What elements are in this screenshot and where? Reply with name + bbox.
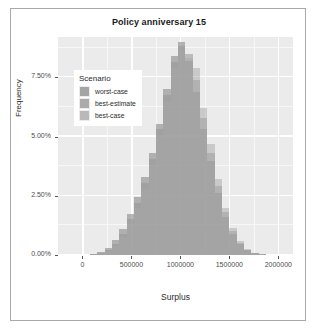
histogram-bar bbox=[134, 208, 141, 255]
y-axis-title: Frequency bbox=[14, 79, 23, 117]
histogram-bar bbox=[193, 68, 200, 255]
y-tick-label: 5.00% bbox=[15, 132, 51, 139]
histogram-bar bbox=[185, 58, 192, 255]
histogram-bar bbox=[244, 249, 251, 255]
histogram-bar bbox=[127, 224, 134, 255]
legend-swatch-icon bbox=[79, 110, 90, 121]
x-tick-mark bbox=[278, 256, 279, 259]
legend-item: worst-case bbox=[79, 86, 136, 97]
y-tick-label: 7.50% bbox=[15, 72, 51, 79]
legend-label: best-estimate bbox=[95, 100, 136, 107]
legend-item: best-estimate bbox=[79, 98, 136, 109]
grid-line-vertical bbox=[278, 37, 279, 255]
x-tick-mark bbox=[82, 256, 83, 259]
histogram-bar bbox=[149, 165, 156, 255]
legend-item: best-case bbox=[79, 110, 136, 121]
chart-title: Policy anniversary 15 bbox=[11, 17, 307, 27]
grid-line-vertical bbox=[229, 37, 230, 255]
histogram-bar bbox=[119, 237, 126, 255]
legend: Scenario worst-casebest-estimatebest-cas… bbox=[74, 70, 142, 126]
histogram-bar bbox=[237, 241, 244, 255]
histogram-bar bbox=[171, 68, 178, 255]
histogram-bar bbox=[141, 189, 148, 255]
x-tick-mark bbox=[131, 256, 132, 259]
x-tick-mark bbox=[229, 256, 230, 259]
legend-swatch-icon bbox=[79, 86, 90, 97]
legend-title: Scenario bbox=[79, 74, 136, 83]
histogram-bar bbox=[163, 102, 170, 255]
legend-swatch-icon bbox=[79, 98, 90, 109]
x-tick-label: 0 bbox=[81, 261, 85, 268]
x-tick-label: 1000000 bbox=[167, 261, 194, 268]
legend-label: best-case bbox=[95, 112, 124, 119]
y-tick-mark bbox=[55, 255, 58, 256]
histogram-bar bbox=[229, 228, 236, 255]
histogram-bar bbox=[105, 251, 112, 255]
y-tick-label: 0.00% bbox=[15, 250, 51, 257]
grid-line-vertical-minor bbox=[254, 37, 255, 255]
chart-frame: Policy anniversary 15 Frequency Surplus … bbox=[10, 8, 306, 321]
legend-label: worst-case bbox=[95, 88, 128, 95]
histogram-bar bbox=[178, 50, 185, 255]
histogram-bar bbox=[97, 254, 104, 255]
y-tick-label: 2.50% bbox=[15, 191, 51, 198]
histogram-bar bbox=[251, 253, 258, 255]
histogram-bar bbox=[156, 137, 163, 255]
histogram-bar bbox=[259, 254, 266, 255]
x-tick-label: 2000000 bbox=[265, 261, 292, 268]
histogram-bar bbox=[207, 144, 214, 255]
x-axis-title: Surplus bbox=[58, 292, 293, 302]
histogram-bar bbox=[112, 246, 119, 255]
histogram-bar bbox=[222, 208, 229, 255]
grid-line-horizontal-minor bbox=[58, 47, 293, 48]
histogram-bar bbox=[215, 179, 222, 255]
x-tick-mark bbox=[180, 256, 181, 259]
x-tick-label: 1500000 bbox=[216, 261, 243, 268]
histogram-bar bbox=[200, 108, 207, 255]
x-tick-label: 500000 bbox=[120, 261, 143, 268]
legend-items: worst-casebest-estimatebest-case bbox=[79, 86, 136, 121]
